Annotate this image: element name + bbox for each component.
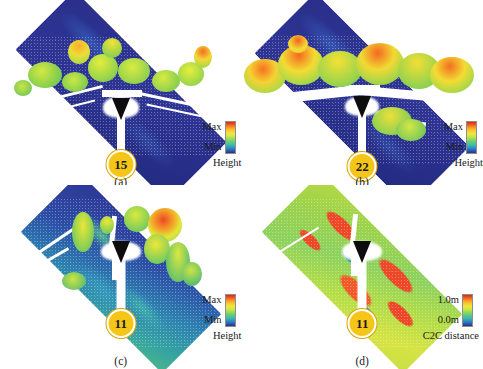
colorbar-d — [462, 294, 473, 327]
viewpoint-arrow-b — [353, 96, 371, 118]
legend-min-label-a: Min — [204, 141, 222, 152]
colorbar-a — [225, 121, 236, 154]
legend-d: 1.0m 0.0m C2C distance — [423, 294, 473, 341]
viewpoint-badge-d[interactable]: 11 — [348, 309, 377, 338]
legend-min-label-c: Min — [204, 314, 222, 325]
legend-a: Max Min Height — [202, 121, 235, 168]
legend-b: Max Min Height — [444, 121, 477, 168]
viewpoint-arrow-a — [112, 98, 130, 120]
figure-grid: 15 Max Min Height (a) — [0, 0, 483, 369]
colorbar-b — [466, 121, 477, 154]
legend-title-b: Height — [454, 157, 483, 168]
panel-c: 11 Max Min Height (c) — [0, 185, 242, 369]
colorbar-c — [225, 294, 236, 327]
point-cloud-scene-c: 11 — [0, 185, 242, 369]
panel-caption-a: (a) — [0, 176, 242, 185]
legend-max-label-d: 1.0m — [438, 294, 459, 305]
legend-c: Max Min Height — [202, 294, 235, 341]
viewpoint-arrow-c — [112, 241, 130, 263]
panel-a: 15 Max Min Height (a) — [0, 0, 242, 185]
viewpoint-arrow-d — [353, 241, 371, 263]
legend-title-a: Height — [213, 157, 242, 168]
legend-max-label-a: Max — [202, 121, 221, 132]
legend-title-d: C2C distance — [423, 330, 479, 341]
panel-caption-d: (d) — [242, 355, 483, 367]
panel-caption-b: (b) — [242, 176, 483, 185]
legend-min-label-b: Min — [445, 141, 463, 152]
point-cloud-scene-d: 11 — [242, 185, 483, 369]
legend-max-label-b: Max — [444, 121, 463, 132]
panel-caption-c: (c) — [0, 355, 242, 367]
legend-title-c: Height — [213, 330, 242, 341]
legend-max-label-c: Max — [202, 294, 221, 305]
legend-min-label-d: 0.0m — [438, 314, 459, 325]
panel-b: 22 Max Min Height (b) — [242, 0, 483, 185]
viewpoint-badge-c[interactable]: 11 — [106, 309, 135, 338]
panel-d: 11 1.0m 0.0m C2C distance (d) — [242, 185, 483, 369]
